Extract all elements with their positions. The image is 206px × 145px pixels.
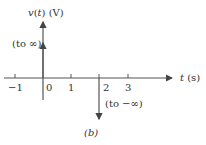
tick-label-0: 0 — [46, 83, 52, 93]
x-var: t — [180, 72, 184, 83]
y-arg: t — [38, 7, 42, 18]
impulse-label-up: (to ∞) — [12, 39, 41, 49]
tick-label-3: 3 — [125, 83, 131, 93]
tick-label-minus-1: −1 — [8, 83, 23, 93]
caption: (b) — [84, 128, 98, 138]
y-var: v — [28, 7, 34, 18]
y-axis-label: v(t) (V) — [28, 8, 64, 18]
x-axis-label: t (s) — [180, 73, 200, 83]
impulse-label-down: (to −∞) — [105, 99, 143, 109]
diagram-canvas — [0, 0, 206, 145]
x-unit: (s) — [187, 72, 200, 83]
y-unit: (V) — [49, 7, 64, 18]
tick-label-2: 2 — [103, 83, 109, 93]
tick-label-1: 1 — [68, 83, 74, 93]
